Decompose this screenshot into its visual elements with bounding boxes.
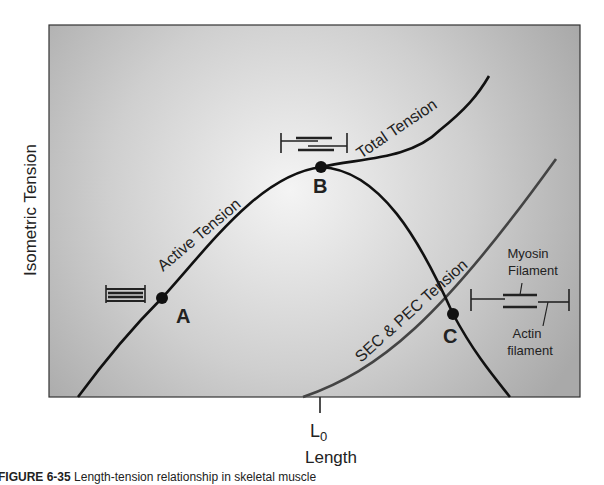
point-b-label: B (313, 175, 327, 197)
actin-label-line2: filament (507, 343, 553, 358)
point-c-marker (447, 308, 459, 320)
point-b-marker (315, 161, 327, 173)
x-axis-label: Length (305, 448, 357, 467)
figure-caption: FIGURE 6-35 Length-tension relationship … (0, 470, 316, 484)
myosin-label-line2: Filament (508, 263, 558, 278)
caption-text: Length-tension relationship in skeletal … (74, 470, 316, 484)
length-tension-diagram: A B C Active Tension Total Tension SEC &… (0, 0, 604, 485)
myosin-label-line1: Myosin (507, 246, 548, 261)
plot-area (49, 25, 580, 397)
l0-tick-label: L0 (310, 421, 327, 444)
point-a-marker (156, 292, 168, 304)
actin-label-line1: Actin (513, 326, 542, 341)
point-c-label: C (443, 325, 457, 347)
y-axis-label: Isometric Tension (21, 144, 40, 276)
point-a-label: A (176, 305, 190, 327)
caption-label: FIGURE 6-35 (0, 470, 71, 484)
